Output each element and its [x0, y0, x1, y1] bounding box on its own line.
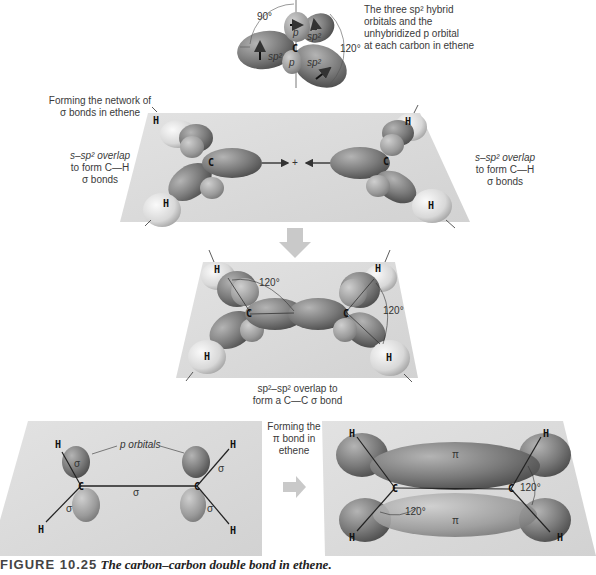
sigma-label: σ	[133, 487, 140, 498]
sigma-label: σ	[207, 503, 214, 514]
note-line: to form C—H	[60, 162, 140, 174]
description-line: orbitals and the	[364, 16, 504, 28]
caption-line: form a C—C σ bond	[235, 395, 360, 407]
sigma-label: σ	[74, 458, 81, 469]
left-overlap-note: s–sp² overlap to form C—H σ bonds	[60, 150, 140, 186]
hydrogen-atom-label: H	[543, 428, 549, 439]
heading-line: Forming the network of	[45, 95, 155, 107]
step-line: ethene	[266, 445, 322, 457]
figure-number: FIGURE 10.25	[0, 557, 97, 572]
carbon-atom-label: C	[78, 481, 84, 492]
sigma-bond-caption: sp²–sp² overlap to form a C—C σ bond	[235, 383, 360, 407]
hydrogen-atom-label: H	[55, 439, 61, 450]
sigma-framework-panel: p orbitals H H H H C C σ σ σ σ σ	[0, 421, 262, 556]
heading-line: σ bonds in ethene	[45, 107, 155, 119]
carbon-hybrid-orbitals: C p p sp² sp² sp² 90° 120°	[235, 0, 361, 96]
sp2-orbital-label: sp²	[307, 57, 322, 68]
angle-120-label: 120°	[340, 43, 361, 54]
sp2-orbital-label: sp²	[307, 31, 322, 42]
description-line: unhybridized p orbital	[364, 28, 504, 40]
right-overlap-note: s–sp² overlap to form C—H σ bonds	[465, 152, 545, 188]
angle-120-label: 120°	[259, 277, 280, 288]
hydrogen-atom-label: H	[428, 200, 434, 211]
hydrogen-atom-label: H	[405, 116, 411, 127]
hydrogen-atom-label: H	[163, 198, 169, 209]
sp2-orbital-label: sp²	[268, 51, 283, 62]
hydrogen-atom-label: H	[204, 351, 210, 362]
note-line: σ bonds	[60, 174, 140, 186]
plus-sign: +	[292, 157, 298, 168]
angle-120-label: 120°	[405, 506, 426, 517]
sigma-network-panel: H H C + H H C	[120, 105, 470, 228]
carbon-atom-label: C	[208, 157, 214, 168]
hydrogen-atom-label: H	[230, 439, 236, 450]
figure-caption: FIGURE 10.25 The carbon–carbon double bo…	[0, 557, 332, 573]
sigma-label: σ	[218, 463, 225, 474]
hydrogen-atom-label: H	[386, 352, 392, 363]
right-arrow-icon	[283, 476, 306, 498]
hydrogen-atom-label: H	[38, 524, 44, 535]
angle-120-label: 120°	[383, 305, 404, 316]
p-orbital-label: p	[292, 27, 299, 38]
hydrogen-atom-label: H	[349, 532, 355, 543]
hydrogen-atom-label: H	[557, 532, 563, 543]
hybrid-orbitals-description: The three sp² hybrid orbitals and the un…	[364, 4, 504, 52]
carbon-atom-label: C	[194, 481, 200, 492]
caption-line: sp²–sp² overlap to	[235, 383, 360, 395]
carbon-atom-label: C	[292, 43, 298, 54]
note-line: to form C—H	[465, 164, 545, 176]
p-orbital-label: p	[288, 57, 295, 68]
pi-bond-panel: H H H H C C π π 120° 120°	[322, 421, 596, 556]
note-line: s–sp² overlap	[465, 152, 545, 164]
hydrogen-atom-label: H	[349, 428, 355, 439]
pi-label: π	[452, 449, 459, 460]
hydrogen-atom-label: H	[230, 525, 236, 536]
hydrogen-atom-label: H	[214, 264, 220, 275]
carbon-atom-label: C	[508, 483, 514, 494]
sigma-network-heading: Forming the network of σ bonds in ethene	[45, 95, 155, 119]
description-line: at each carbon in ethene	[364, 40, 504, 52]
ethene-orbital-diagram: C p p sp² sp² sp² 90° 120° H H C +	[0, 0, 596, 575]
sigma-bond-panel: H H H H C C 120° 120°	[176, 250, 418, 382]
sigma-label: σ	[66, 503, 73, 514]
note-line: s–sp² overlap	[60, 150, 140, 162]
pi-label: π	[452, 515, 459, 526]
step-line: Forming the	[266, 421, 322, 433]
angle-90-label: 90°	[257, 11, 272, 22]
carbon-atom-label: C	[246, 308, 252, 319]
p-orbitals-label: p orbitals	[119, 439, 161, 450]
note-line: σ bonds	[465, 176, 545, 188]
hydrogen-atom-label: H	[375, 263, 381, 274]
pi-step-label: Forming the π bond in ethene	[266, 421, 322, 457]
carbon-atom-label: C	[392, 483, 398, 494]
description-line: The three sp² hybrid	[364, 4, 504, 16]
angle-120-label: 120°	[520, 482, 541, 493]
down-arrow-icon	[279, 228, 311, 258]
carbon-atom-label: C	[383, 156, 389, 167]
carbon-atom-label: C	[343, 308, 349, 319]
step-line: π bond in	[266, 433, 322, 445]
figure-title: The carbon–carbon double bond in ethene.	[101, 557, 332, 572]
